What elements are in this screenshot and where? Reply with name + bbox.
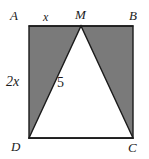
geometry-figure: A x M B 2x 5 D C xyxy=(0,0,149,159)
vertex-label-a: A xyxy=(10,9,18,22)
measure-label-2x: 2x xyxy=(6,75,19,89)
vertex-label-d: D xyxy=(11,140,20,153)
geometry-canvas xyxy=(0,0,149,159)
vertex-label-m: M xyxy=(75,8,86,21)
vertex-label-b: B xyxy=(129,9,137,22)
measure-label-x: x xyxy=(43,11,48,23)
vertex-label-c: C xyxy=(128,141,137,154)
measure-label-5: 5 xyxy=(57,76,64,90)
